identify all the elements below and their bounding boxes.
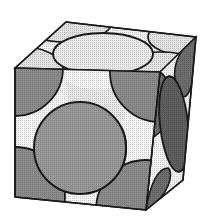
fcc-unit-cell-diagram: Face-centered cubic unit cell (hard-sphe… (0, 0, 202, 221)
fcc-cube-svg (0, 0, 202, 221)
